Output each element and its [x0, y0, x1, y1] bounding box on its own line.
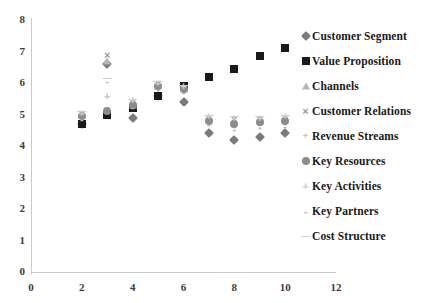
legend-item-value-proposition[interactable]: Value Proposition: [299, 48, 431, 73]
data-point: [103, 107, 111, 115]
chart-legend: Customer SegmentValue PropositionChannel…: [299, 23, 431, 248]
data-point: [230, 65, 238, 73]
y-tick-label-8: 8: [5, 14, 25, 25]
x-tick-label-12: 12: [326, 282, 346, 293]
legend-item-label: Value Proposition: [312, 55, 401, 67]
plot-area: [31, 20, 336, 272]
legend-item-label: Customer Segment: [312, 30, 407, 42]
legend-item-label: Key Resources: [312, 155, 386, 167]
legend-item-key-activities[interactable]: +Key Activities: [299, 173, 431, 198]
plus-small-icon: +: [299, 129, 312, 142]
y-tick-label-0: 0: [5, 266, 25, 277]
data-point: -: [204, 119, 214, 128]
line-icon: —: [299, 229, 312, 242]
legend-item-customer-relations[interactable]: ×Customer Relations: [299, 98, 431, 123]
legend-item-label: Channels: [312, 80, 359, 92]
square-icon: [299, 54, 312, 67]
diamond-icon: [299, 29, 312, 42]
x-tick-label-10: 10: [275, 282, 295, 293]
data-point: -: [229, 124, 239, 133]
x-tick-label-2: 2: [72, 282, 92, 293]
y-tick-label-6: 6: [5, 77, 25, 88]
data-point: -: [128, 102, 138, 111]
data-point: —: [280, 110, 290, 119]
data-point: —: [128, 94, 138, 103]
y-tick-label-5: 5: [5, 109, 25, 120]
data-point: +: [102, 91, 112, 100]
data-point: —: [153, 77, 163, 86]
circle-icon: [299, 154, 312, 167]
plus-icon: +: [299, 179, 312, 192]
data-point: —: [255, 112, 265, 121]
cross-icon: ×: [299, 104, 312, 117]
data-point: -: [153, 85, 163, 94]
data-point: ×: [102, 50, 112, 59]
data-point: -: [179, 88, 189, 97]
x-tick-label-0: 0: [21, 282, 41, 293]
y-tick-label-2: 2: [5, 203, 25, 214]
data-point: —: [77, 107, 87, 116]
legend-item-label: Revenue Streams: [312, 130, 399, 142]
legend-item-key-partners[interactable]: -Key Partners: [299, 198, 431, 223]
data-point: -: [280, 121, 290, 130]
x-tick-label-4: 4: [123, 282, 143, 293]
legend-item-label: Key Activities: [312, 180, 381, 192]
data-point: [205, 73, 213, 81]
x-tick-label-8: 8: [224, 282, 244, 293]
legend-item-label: Customer Relations: [312, 105, 411, 117]
x-tick-label-6: 6: [174, 282, 194, 293]
y-tick-label-7: 7: [5, 46, 25, 57]
dash-icon: -: [299, 204, 312, 217]
data-point: —: [102, 74, 112, 83]
data-point: -: [255, 123, 265, 132]
legend-item-customer-segment[interactable]: Customer Segment: [299, 23, 431, 48]
legend-item-revenue-streams[interactable]: +Revenue Streams: [299, 123, 431, 148]
data-point: —: [204, 110, 214, 119]
legend-item-key-resources[interactable]: Key Resources: [299, 148, 431, 173]
y-tick-label-3: 3: [5, 172, 25, 183]
legend-item-cost-structure[interactable]: —Cost Structure: [299, 223, 431, 248]
data-point: —: [229, 112, 239, 121]
data-point: -: [77, 115, 87, 124]
legend-item-label: Key Partners: [312, 205, 379, 217]
data-point: —: [179, 80, 189, 89]
legend-item-channels[interactable]: Channels: [299, 73, 431, 98]
y-tick-label-1: 1: [5, 235, 25, 246]
data-point: [256, 52, 264, 60]
triangle-icon: [299, 79, 312, 92]
x-axis-line: [31, 272, 336, 273]
scatter-chart: 012345678 024681012 Customer SegmentValu…: [0, 0, 431, 303]
legend-item-label: Cost Structure: [312, 230, 386, 242]
data-point: [281, 44, 289, 52]
y-tick-label-4: 4: [5, 140, 25, 151]
